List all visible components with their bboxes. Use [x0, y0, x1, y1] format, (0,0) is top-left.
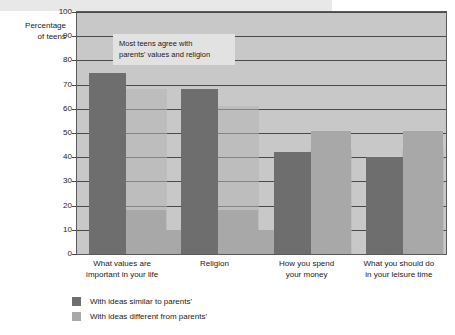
x-axis-label-1: Religion — [168, 258, 260, 269]
x-axis-label-3: What you should doin your leisure time — [353, 258, 445, 280]
y-tick-label: 60 — [46, 104, 72, 113]
x-axis-label-line: What values are — [76, 258, 168, 269]
x-axis-label-line: What you should do — [353, 258, 445, 269]
chart-root: Percentage of teens 10090807060504030201… — [0, 0, 455, 335]
legend-label: With ideas similar to parents' — [90, 297, 192, 306]
gridline — [77, 12, 446, 13]
annotation-line-1: Most teens agree with — [119, 38, 229, 49]
y-tick-label: 0 — [46, 249, 72, 258]
legend-label: With ideas different from parents' — [90, 312, 207, 321]
y-tick-label: 30 — [46, 176, 72, 185]
legend-swatch-icon — [72, 297, 81, 306]
y-tick-label: 40 — [46, 152, 72, 161]
annotation-line-2: parents' values and religion — [119, 49, 229, 60]
x-axis-label-2: How you spendyour money — [261, 258, 353, 280]
y-tick-label: 50 — [46, 128, 72, 137]
bar-series-similar — [89, 73, 126, 255]
top-strip-right-filler — [332, 0, 455, 11]
y-axis-tick-labels: 1009080706050403020100 — [44, 11, 72, 255]
bar-series-similar — [366, 157, 403, 254]
y-tick-label: 20 — [46, 201, 72, 210]
bar-series-different — [403, 131, 443, 254]
bar-series-different — [218, 210, 258, 254]
bar-series-similar — [274, 152, 311, 254]
chart-annotation-callout: Most teens agree with parents' values an… — [113, 34, 235, 65]
x-axis-label-0: What values areimportant in your life — [76, 258, 168, 280]
legend-swatch-icon — [72, 312, 81, 321]
y-tick-label: 100 — [46, 7, 72, 16]
gridline — [77, 85, 446, 86]
legend-item[interactable]: With ideas different from parents' — [72, 309, 207, 324]
bar-series-different — [126, 210, 166, 254]
bar-series-different — [311, 131, 351, 254]
y-tick-label: 10 — [46, 225, 72, 234]
x-axis-label-line: in your leisure time — [353, 269, 445, 280]
y-tick-label: 70 — [46, 80, 72, 89]
legend-item[interactable]: With ideas similar to parents' — [72, 294, 207, 309]
x-axis-label-line: important in your life — [76, 269, 168, 280]
x-axis-category-labels: What values areimportant in your lifeRel… — [76, 258, 447, 288]
bar-series-similar — [181, 89, 218, 254]
y-tick-label: 80 — [46, 55, 72, 64]
x-axis-label-line: How you spend — [261, 258, 353, 269]
x-axis-label-line: your money — [261, 269, 353, 280]
chart-legend: With ideas similar to parents'With ideas… — [72, 294, 207, 324]
y-tick-label: 90 — [46, 31, 72, 40]
x-axis-label-line: Religion — [168, 258, 260, 269]
